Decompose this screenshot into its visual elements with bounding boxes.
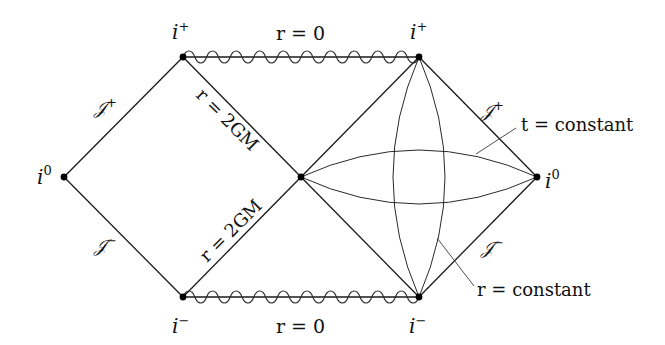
horizon-line-upper-right — [301, 57, 419, 177]
r-constant-curves — [393, 57, 445, 297]
vertex-iminus-left — [180, 294, 187, 301]
t-constant-curves — [301, 150, 537, 204]
label-iminus-left: i− — [172, 313, 189, 338]
vertex-iminus-right — [416, 294, 423, 301]
horizon-line-lower — [183, 177, 301, 297]
label-iplus-left: i+ — [172, 19, 189, 44]
label-singularity-bottom: r = 0 — [276, 315, 325, 337]
horizon-line-lower-right — [301, 177, 419, 297]
r-constant-curve-left — [393, 57, 419, 297]
t-constant-curve-upper — [301, 150, 537, 177]
horizon-line-upper — [183, 57, 301, 177]
scri-minus-left-edge — [64, 177, 183, 297]
label-r-constant: r = constant — [477, 279, 591, 300]
label-t-constant: t = constant — [521, 114, 634, 135]
label-horizon-upper: r = 2GM — [192, 84, 263, 155]
scri-plus-left-edge — [64, 57, 183, 177]
label-singularity-top: r = 0 — [276, 22, 325, 44]
vertex-iplus-left — [180, 54, 187, 61]
scri-plus-right-edge — [419, 57, 537, 177]
r-constant-leader — [437, 238, 474, 286]
vertices — [61, 54, 541, 301]
vertex-i0-right — [534, 174, 541, 181]
vertex-iplus-right — [416, 54, 423, 61]
label-scri-minus-left: 𝒥− — [93, 233, 117, 256]
singularity-top — [183, 51, 419, 63]
singularity-bottom — [183, 291, 419, 303]
singularity-top-wave — [183, 51, 419, 63]
right-region-boundary — [419, 57, 537, 297]
penrose-diagram: i+ i+ i− i− i0 i0 𝒥+ 𝒥− 𝒥+ 𝒥− r = 0 r = … — [0, 0, 665, 345]
label-scri-plus-left: 𝒥+ — [93, 95, 117, 118]
t-constant-curve-lower — [301, 177, 537, 204]
vertex-center-bifurcation — [298, 174, 305, 181]
label-iplus-right: i+ — [410, 19, 427, 44]
label-scri-plus-right: 𝒥+ — [480, 98, 504, 121]
label-i0-right: i0 — [545, 167, 560, 193]
label-iminus-right: i− — [409, 313, 426, 338]
r-constant-curve-right — [419, 57, 445, 297]
label-i0-left: i0 — [37, 163, 52, 189]
label-scri-minus-right: 𝒥− — [480, 235, 504, 258]
vertex-i0-left — [61, 174, 68, 181]
left-region-boundary — [64, 57, 183, 297]
singularity-bottom-wave — [183, 291, 419, 303]
label-horizon-lower: r = 2GM — [195, 195, 266, 266]
